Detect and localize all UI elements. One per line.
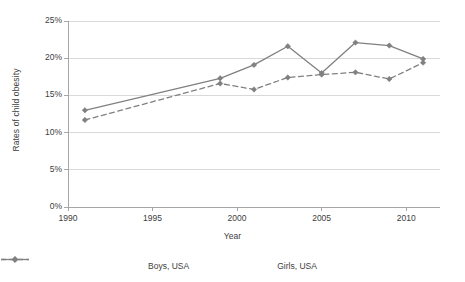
x-axis-title: Year [0,231,465,241]
legend-marker-icon [0,255,30,264]
legend-label: Boys, USA [148,261,189,271]
x-tick-label: 2005 [300,214,344,223]
chart-legend: Boys, USAGirls, USA [0,255,465,277]
legend-item-1[interactable]: Boys, USA [148,261,189,271]
y-tick-label: 20% [28,53,62,62]
x-tick-label: 2010 [384,214,428,223]
child-obesity-line-chart: 0%5%10%15%20%25% 19901995200020052010 Ra… [0,0,465,282]
y-tick-label: 25% [28,16,62,25]
y-axis-title: Rates of child obesity [11,50,21,170]
data-series-layer [82,40,426,123]
legend-label: Girls, USA [277,261,317,271]
gridlines [68,21,440,170]
series-2 [82,60,426,123]
legend-item-2[interactable]: Girls, USA [277,261,317,271]
axis-lines [68,21,440,207]
x-tick-label: 1990 [46,214,90,223]
y-tick-label: 5% [28,165,62,174]
x-tick-label: 1995 [131,214,175,223]
y-tick-label: 0% [28,202,62,211]
x-tick-label: 2000 [215,214,259,223]
tick-marks [64,21,406,211]
y-tick-label: 10% [28,128,62,137]
y-tick-label: 15% [28,90,62,99]
